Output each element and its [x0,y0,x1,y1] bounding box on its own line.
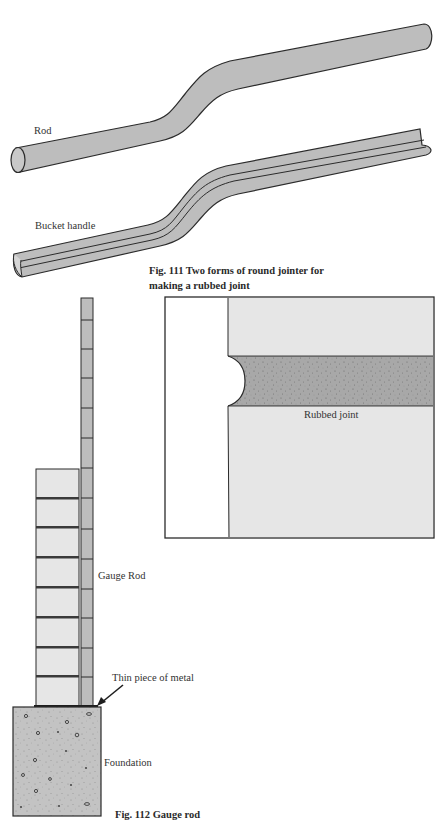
label-rubbed-joint: Rubbed joint [304,409,359,420]
fig111-caption-line2: making a rubbed joint [149,278,324,293]
label-rod: Rod [34,125,52,136]
arrow-icon [97,685,123,706]
fig111-caption: Fig. 111 Two forms of round jointer for … [149,263,324,293]
label-foundation: Foundation [104,757,152,768]
fig111-caption-line1: Fig. 111 Two forms of round jointer for [149,263,324,278]
gauge-rod [81,298,93,706]
label-gauge-rod: Gauge Rod [98,570,146,581]
label-thin-metal: Thin piece of metal [112,672,194,683]
illustration-canvas [0,0,445,830]
brick-wall [36,469,79,706]
fig112-caption: Fig. 112 Gauge rod [115,807,200,822]
rubbed-joint-detail [165,297,434,538]
label-bucket-handle: Bucket handle [35,220,95,231]
foundation-block [13,707,101,816]
